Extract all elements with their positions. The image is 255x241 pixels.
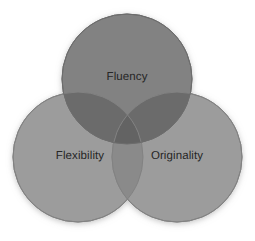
set-label-originality: Originality <box>151 151 203 163</box>
venn-diagram-canvas <box>0 0 255 241</box>
set-label-fluency: Fluency <box>107 72 148 84</box>
venn-diagram: Fluency Flexibility Originality <box>0 0 255 241</box>
set-label-flexibility: Flexibility <box>56 151 104 163</box>
